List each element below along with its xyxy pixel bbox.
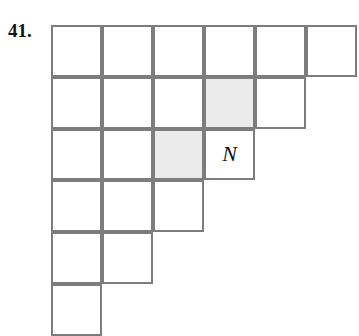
figure-root: 41. N [0, 0, 359, 336]
grid-cell-r6-c1 [51, 284, 102, 336]
grid-cell-r4-c3 [153, 180, 204, 232]
grid-cell-r2-c1 [51, 77, 102, 129]
grid-cell-r1-c2 [102, 25, 153, 77]
grid-cell-r3-c4: N [204, 129, 255, 181]
grid-cell-r1-c6 [306, 25, 357, 77]
grid-cell-r3-c2 [102, 129, 153, 181]
grid-cell-r1-c4 [204, 25, 255, 77]
problem-number-label: 41. [8, 20, 32, 42]
cell-label-n: N [206, 131, 253, 179]
grid-cell-r1-c5 [255, 25, 306, 77]
staircase-grid: N [51, 25, 357, 336]
grid-cell-r2-c4 [204, 77, 255, 129]
grid-cell-r1-c3 [153, 25, 204, 77]
grid-cell-r3-c3 [153, 129, 204, 181]
grid-cell-r2-c3 [153, 77, 204, 129]
grid-cell-r5-c1 [51, 232, 102, 284]
grid-cell-r4-c2 [102, 180, 153, 232]
grid-cell-r2-c5 [255, 77, 306, 129]
grid-cell-r2-c2 [102, 77, 153, 129]
grid-cell-r5-c2 [102, 232, 153, 284]
grid-cell-r4-c1 [51, 180, 102, 232]
grid-cell-r1-c1 [51, 25, 102, 77]
grid-cell-r3-c1 [51, 129, 102, 181]
